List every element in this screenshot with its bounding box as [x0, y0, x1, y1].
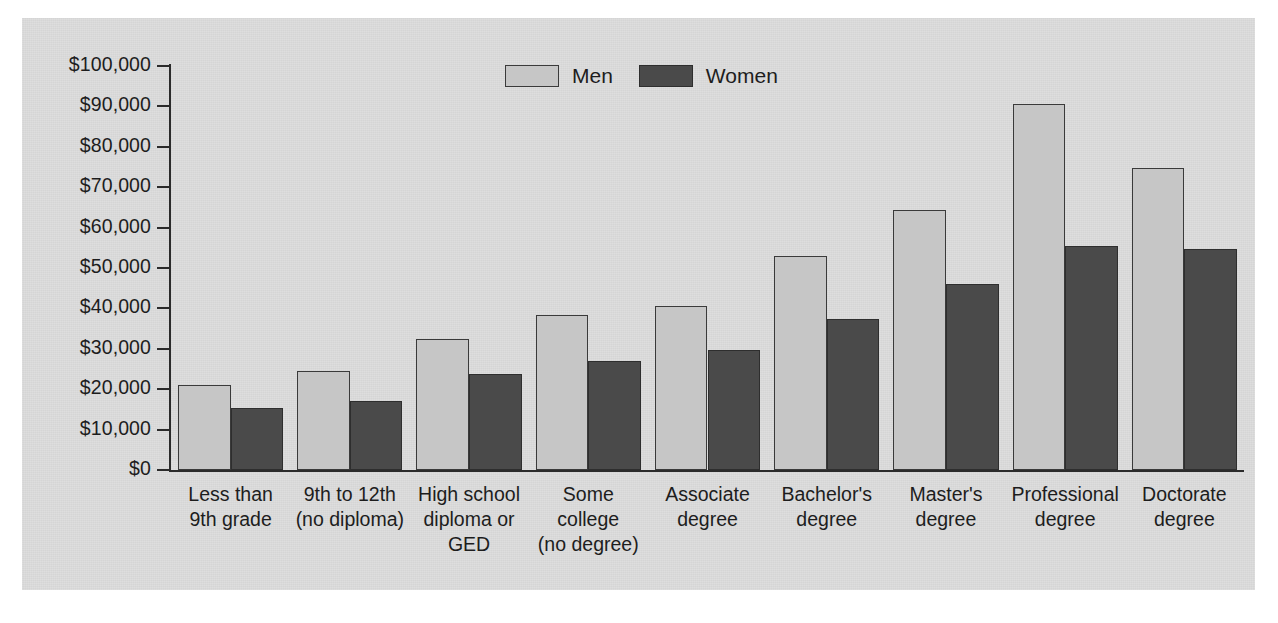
- x-axis-label: Associate degree: [642, 482, 773, 532]
- bar-women: [588, 361, 641, 470]
- bar-women: [1065, 246, 1118, 470]
- bar-men: [1132, 168, 1185, 470]
- x-axis-label: Bachelor's degree: [761, 482, 892, 532]
- legend-label-women: Women: [706, 64, 778, 88]
- legend-swatch-women: [639, 65, 693, 87]
- bar-women: [350, 401, 403, 470]
- bar-men: [655, 306, 708, 470]
- bar-men: [1013, 104, 1066, 470]
- chart-legend: Men Women: [505, 64, 778, 88]
- bar-women: [708, 350, 761, 470]
- bar-women: [1184, 249, 1237, 470]
- bar-men: [416, 339, 469, 470]
- chart-screenshot: $100,000$90,000$80,000$70,000$60,000$50,…: [0, 0, 1278, 623]
- bar-women: [469, 374, 522, 470]
- legend-label-men: Men: [572, 64, 613, 88]
- x-axis-label: Some college (no degree): [523, 482, 654, 557]
- bar-women: [231, 408, 284, 470]
- x-axis-label: Professional degree: [1000, 482, 1131, 532]
- x-axis-label: Master's degree: [880, 482, 1011, 532]
- legend-item-women: Women: [639, 64, 778, 88]
- bar-men: [774, 256, 827, 470]
- bar-men: [297, 371, 350, 470]
- bar-women: [946, 284, 999, 470]
- legend-swatch-men: [505, 65, 559, 87]
- legend-item-men: Men: [505, 64, 613, 88]
- bar-men: [536, 315, 589, 470]
- bar-women: [827, 319, 880, 470]
- x-axis-label: High school diploma or GED: [403, 482, 534, 557]
- x-axis-label: 9th to 12th (no diploma): [284, 482, 415, 532]
- bar-men: [178, 385, 231, 470]
- x-axis-label: Doctorate degree: [1119, 482, 1250, 532]
- bar-men: [893, 210, 946, 470]
- plot-area: $100,000$90,000$80,000$70,000$60,000$50,…: [0, 0, 1278, 623]
- x-axis-label: Less than 9th grade: [165, 482, 296, 532]
